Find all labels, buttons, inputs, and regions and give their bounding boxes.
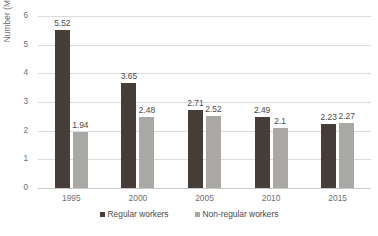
legend-item-non-regular-workers[interactable]: Non-regular workers bbox=[195, 210, 279, 218]
bar-2015-non-regular[interactable] bbox=[339, 123, 354, 188]
bar-2000-non-regular[interactable] bbox=[139, 117, 154, 188]
bar-group-2010: 2.492.1 bbox=[238, 16, 305, 188]
bar-value-label-2000-regular: 3.65 bbox=[116, 72, 141, 80]
legend-item-regular-workers[interactable]: Regular workers bbox=[100, 210, 169, 218]
plot-area: 0123456 5.521.943.652.482.712.522.492.12… bbox=[38, 16, 371, 188]
bar-1995-non-regular[interactable] bbox=[73, 132, 88, 188]
bar-2005-non-regular[interactable] bbox=[206, 116, 221, 188]
bar-1995-regular[interactable] bbox=[55, 30, 70, 188]
x-tick-label-2005: 2005 bbox=[171, 194, 238, 202]
y-tick-label-5: 5 bbox=[8, 41, 28, 49]
gridline-0 bbox=[38, 188, 371, 189]
legend-label: Regular workers bbox=[108, 210, 169, 218]
bar-chart: Number (Million) 0123456 5.521.943.652.4… bbox=[0, 0, 378, 236]
y-tick-label-3: 3 bbox=[8, 98, 28, 106]
x-tick-label-2000: 2000 bbox=[105, 194, 172, 202]
bar-2010-non-regular[interactable] bbox=[273, 128, 288, 188]
bar-group-2015: 2.232.27 bbox=[304, 16, 371, 188]
x-tick-label-2015: 2015 bbox=[304, 194, 371, 202]
bar-value-label-2015-non-regular: 2.27 bbox=[334, 112, 359, 120]
bar-group-bars: 2.492.1 bbox=[238, 16, 305, 188]
bar-group-2000: 3.652.48 bbox=[105, 16, 172, 188]
bar-2010-regular[interactable] bbox=[255, 117, 270, 188]
legend-swatch-icon bbox=[100, 212, 105, 217]
x-tick-label-2010: 2010 bbox=[238, 194, 305, 202]
bar-group-bars: 5.521.94 bbox=[38, 16, 105, 188]
legend: Regular workersNon-regular workers bbox=[0, 210, 378, 218]
y-axis-title: Number (Million) bbox=[1, 0, 15, 66]
y-tick-label-1: 1 bbox=[8, 155, 28, 163]
bar-group-2005: 2.712.52 bbox=[171, 16, 238, 188]
bar-value-label-2005-non-regular: 2.52 bbox=[201, 105, 226, 113]
bar-value-label-1995-non-regular: 1.94 bbox=[68, 121, 93, 129]
y-tick-label-4: 4 bbox=[8, 69, 28, 77]
bar-2005-regular[interactable] bbox=[188, 110, 203, 188]
bar-2015-regular[interactable] bbox=[321, 124, 336, 188]
legend-label: Non-regular workers bbox=[203, 210, 279, 218]
bar-group-bars: 2.712.52 bbox=[171, 16, 238, 188]
y-tick-label-2: 2 bbox=[8, 127, 28, 135]
bar-group-1995: 5.521.94 bbox=[38, 16, 105, 188]
legend-swatch-icon bbox=[195, 212, 200, 217]
bar-group-bars: 2.232.27 bbox=[304, 16, 371, 188]
bar-value-label-2010-non-regular: 2.1 bbox=[268, 117, 293, 125]
bar-2000-regular[interactable] bbox=[121, 83, 136, 188]
bar-value-label-2000-non-regular: 2.48 bbox=[134, 106, 159, 114]
bar-group-bars: 3.652.48 bbox=[105, 16, 172, 188]
bar-value-label-2010-regular: 2.49 bbox=[250, 106, 275, 114]
y-tick-label-0: 0 bbox=[8, 184, 28, 192]
y-tick-label-6: 6 bbox=[8, 12, 28, 20]
x-tick-label-1995: 1995 bbox=[38, 194, 105, 202]
bar-value-label-1995-regular: 5.52 bbox=[50, 19, 75, 27]
